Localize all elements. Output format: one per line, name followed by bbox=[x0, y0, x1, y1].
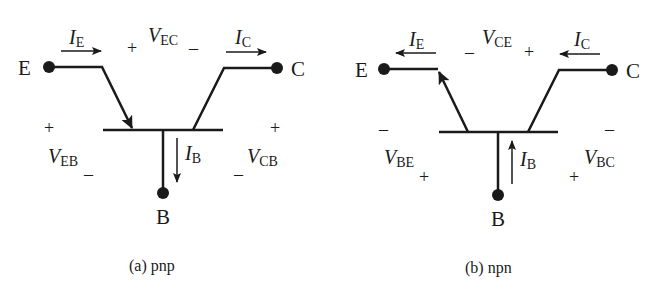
collector-label: C bbox=[626, 59, 640, 83]
vbc-plus: + bbox=[569, 167, 579, 187]
emitter-lead-diagonal bbox=[439, 72, 468, 132]
vbc-label: VBC bbox=[584, 146, 615, 170]
transistor-diagrams: E C B IE + VEC – IC + VEB – IB + VCB – bbox=[0, 0, 660, 295]
pnp-diagram: E C B IE + VEC – IC + VEB – IB + VCB – bbox=[18, 24, 305, 275]
vbe-minus: – bbox=[378, 119, 389, 139]
base-current-label: IB bbox=[184, 142, 201, 166]
vbe-plus: + bbox=[419, 167, 429, 187]
base-terminal-dot bbox=[157, 187, 169, 199]
npn-caption: (b) npn bbox=[465, 259, 512, 277]
emitter-label: E bbox=[355, 58, 368, 82]
vce-label: VCE bbox=[482, 26, 512, 50]
vcb-label: VCB bbox=[247, 145, 278, 169]
base-current-label: IB bbox=[519, 148, 536, 172]
vec-label: VEC bbox=[148, 24, 178, 48]
collector-lead bbox=[193, 68, 277, 130]
collector-current-label: IC bbox=[573, 28, 590, 52]
veb-label: VEB bbox=[48, 145, 78, 169]
emitter-current-label: IE bbox=[408, 28, 424, 52]
base-label: B bbox=[156, 205, 170, 229]
emitter-label: E bbox=[18, 56, 31, 80]
emitter-lead bbox=[49, 67, 132, 128]
vbe-label: VBE bbox=[384, 146, 414, 170]
vcb-plus: + bbox=[270, 118, 280, 138]
base-terminal-dot bbox=[492, 189, 504, 201]
base-label: B bbox=[491, 207, 505, 231]
collector-lead bbox=[528, 70, 612, 132]
vcb-minus: – bbox=[233, 164, 244, 184]
veb-plus: + bbox=[44, 118, 54, 138]
collector-label: C bbox=[291, 57, 305, 81]
vce-plus: + bbox=[524, 42, 534, 62]
collector-current-label: IC bbox=[234, 26, 251, 50]
collector-terminal-dot bbox=[606, 64, 618, 76]
vbc-minus: – bbox=[604, 119, 615, 139]
collector-terminal-dot bbox=[271, 62, 283, 74]
pnp-caption: (a) pnp bbox=[129, 257, 175, 275]
npn-diagram: E C B IE – VCE + IC – VBE + IB – VBC + bbox=[355, 26, 640, 277]
emitter-current-label: IE bbox=[68, 26, 84, 50]
vec-plus: + bbox=[127, 38, 137, 58]
vce-minus: – bbox=[464, 42, 475, 62]
vec-minus: – bbox=[188, 38, 199, 58]
veb-minus: – bbox=[83, 164, 94, 184]
